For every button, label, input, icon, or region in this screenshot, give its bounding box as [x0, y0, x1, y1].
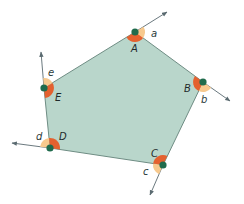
angle-label-b: b [201, 94, 207, 105]
vertex-label-b: B [184, 83, 191, 94]
diagram-canvas: A B C D E a b c d e [0, 0, 244, 204]
pentagon-exterior-angles-diagram: A B C D E a b c d e [0, 0, 244, 204]
angle-label-e: e [48, 67, 54, 78]
angle-label-c: c [143, 166, 149, 177]
vertex-label-a: A [130, 43, 138, 54]
vertex-dot-d [46, 144, 53, 151]
vertex-label-e: E [55, 92, 62, 103]
angle-label-a: a [151, 28, 157, 39]
vertex-dot-a [131, 28, 138, 35]
pentagon [44, 32, 203, 165]
ray-e [41, 52, 44, 88]
vertex-label-d: D [59, 131, 67, 142]
vertex-label-c: C [151, 148, 158, 159]
vertex-dot-e [40, 84, 47, 91]
vertex-dot-c [159, 161, 166, 168]
angle-label-d: d [36, 131, 43, 142]
vertex-dot-b [199, 78, 206, 85]
